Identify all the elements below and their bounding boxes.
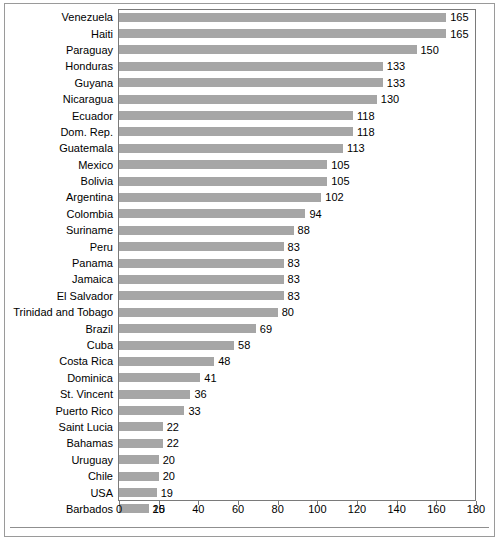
bar-row: Peru83	[0, 238, 500, 254]
x-tick-mark	[119, 501, 120, 505]
bar-and-value: 165	[119, 9, 469, 25]
category-label: Suriname	[0, 224, 113, 236]
bar	[119, 209, 305, 218]
bar	[119, 259, 284, 268]
category-label: St. Vincent	[0, 388, 113, 400]
category-label: Guyana	[0, 77, 113, 89]
bar-and-value: 113	[119, 140, 365, 156]
bar	[119, 455, 159, 464]
x-tick-mark	[198, 501, 199, 505]
bottom-rule	[10, 527, 489, 528]
bar-and-value: 105	[119, 173, 350, 189]
category-label: Peru	[0, 241, 113, 253]
bar	[119, 193, 321, 202]
bar-and-value: 102	[119, 189, 344, 205]
bar-and-value: 118	[119, 107, 375, 123]
bar	[119, 29, 446, 38]
bar-and-value: 48	[119, 353, 230, 369]
value-label: 83	[288, 241, 300, 253]
bar-row: Suriname88	[0, 222, 500, 238]
category-label: Venezuela	[0, 11, 113, 23]
bar-row: Nicaragua130	[0, 91, 500, 107]
bar-row: Dom. Rep.118	[0, 124, 500, 140]
bar-row: Saint Lucia22	[0, 419, 500, 435]
bar	[119, 62, 383, 71]
bar-row: Brazil69	[0, 320, 500, 336]
bar-row: St. Vincent36	[0, 386, 500, 402]
bar-row: Uruguay20	[0, 452, 500, 468]
x-tick-mark	[159, 501, 160, 505]
x-tick-mark	[238, 501, 239, 505]
bar-row: Chile20	[0, 468, 500, 484]
bar-and-value: 83	[119, 288, 300, 304]
bar-and-value: 94	[119, 206, 322, 222]
bar-row: Costa Rica48	[0, 353, 500, 369]
value-label: 83	[288, 273, 300, 285]
bar	[119, 406, 184, 415]
bar	[119, 242, 284, 251]
category-label: Haiti	[0, 28, 113, 40]
value-label: 20	[163, 470, 175, 482]
bar-row: Ecuador118	[0, 107, 500, 123]
bar	[119, 422, 163, 431]
category-label: Costa Rica	[0, 355, 113, 367]
bar	[119, 373, 200, 382]
bar	[119, 78, 383, 87]
bar-row: Haiti165	[0, 25, 500, 41]
category-label: Mexico	[0, 159, 113, 171]
category-label: Uruguay	[0, 454, 113, 466]
value-label: 36	[194, 388, 206, 400]
category-label: Trinidad and Tobago	[0, 306, 113, 318]
category-label: Puerto Rico	[0, 405, 113, 417]
bar-row: Panama83	[0, 255, 500, 271]
bar-row: Honduras133	[0, 58, 500, 74]
bar-and-value: 19	[119, 484, 173, 500]
x-tick-mark	[317, 501, 318, 505]
x-axis-ticks: 020406080100120140160180	[0, 503, 500, 519]
bar-row: Argentina102	[0, 189, 500, 205]
value-label: 133	[387, 77, 405, 89]
bar-and-value: 130	[119, 91, 399, 107]
bar-and-value: 20	[119, 452, 175, 468]
bar-and-value: 22	[119, 435, 179, 451]
bar-row: Guatemala113	[0, 140, 500, 156]
bar-and-value: 22	[119, 419, 179, 435]
x-tick-mark	[476, 501, 477, 505]
bar-and-value: 58	[119, 337, 250, 353]
bar-row: Venezuela165	[0, 9, 500, 25]
value-label: 58	[238, 339, 250, 351]
bar	[119, 177, 327, 186]
bar-and-value: 69	[119, 320, 272, 336]
category-label: Brazil	[0, 323, 113, 335]
category-label: Paraguay	[0, 44, 113, 56]
value-label: 105	[331, 159, 349, 171]
category-label: Nicaragua	[0, 93, 113, 105]
bar	[119, 390, 190, 399]
category-label: Panama	[0, 257, 113, 269]
bar	[119, 95, 377, 104]
bar	[119, 357, 214, 366]
bar-row: Colombia94	[0, 206, 500, 222]
bar	[119, 291, 284, 300]
category-label: USA	[0, 487, 113, 499]
bar-and-value: 105	[119, 157, 350, 173]
category-label: Cuba	[0, 339, 113, 351]
value-label: 130	[381, 93, 399, 105]
bar	[119, 488, 157, 497]
bar	[119, 144, 343, 153]
x-tick-mark	[357, 501, 358, 505]
value-label: 22	[167, 421, 179, 433]
bar-rows: Venezuela165Haiti165Paraguay150Honduras1…	[0, 9, 500, 501]
bar	[119, 45, 417, 54]
bar-and-value: 88	[119, 222, 310, 238]
category-label: Ecuador	[0, 110, 113, 122]
category-label: Argentina	[0, 191, 113, 203]
category-label: Saint Lucia	[0, 421, 113, 433]
category-label: Jamaica	[0, 273, 113, 285]
bar-row: Bahamas22	[0, 435, 500, 451]
value-label: 83	[288, 290, 300, 302]
bar	[119, 111, 353, 120]
value-label: 113	[347, 142, 365, 154]
bar-and-value: 20	[119, 468, 175, 484]
x-tick-mark	[278, 501, 279, 505]
